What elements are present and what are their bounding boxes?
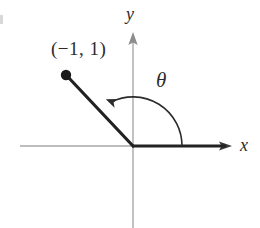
- point-coordinate-label: (−1, 1): [51, 38, 106, 60]
- diagram-canvas: [0, 0, 260, 228]
- angle-arc: [111, 97, 182, 146]
- terminal-side-ray: [68, 77, 133, 146]
- point-marker-minus1-1: [61, 70, 71, 80]
- y-axis-label: y: [126, 4, 134, 25]
- x-axis-label: x: [240, 135, 248, 156]
- angle-diagram-figure: (−1, 1) θ y x: [0, 0, 260, 228]
- angle-theta-label: θ: [156, 68, 166, 93]
- angle-arc-arrowhead: [106, 99, 118, 108]
